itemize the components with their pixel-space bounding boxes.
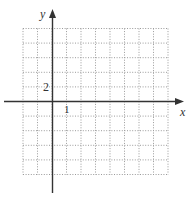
x-axis (4, 98, 184, 105)
y-axis-arrow-icon (49, 9, 56, 18)
x-axis-arrow-icon (175, 98, 184, 105)
x-tick-label: 1 (64, 103, 70, 115)
y-axis-label: y (40, 8, 45, 20)
coordinate-plane (0, 0, 196, 199)
x-axis-label: x (180, 106, 185, 118)
y-tick-label: 2 (43, 81, 49, 93)
